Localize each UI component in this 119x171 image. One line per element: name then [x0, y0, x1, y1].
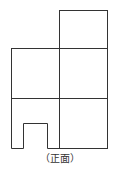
cube-middle-right	[60, 49, 108, 99]
cube-bottom-left-notched	[12, 99, 60, 149]
view-caption: （正面）	[0, 150, 119, 165]
front-view-diagram	[0, 0, 119, 171]
cube-bottom-right	[60, 99, 108, 149]
cube-top-right	[60, 11, 108, 49]
cube-middle-left	[12, 49, 60, 99]
